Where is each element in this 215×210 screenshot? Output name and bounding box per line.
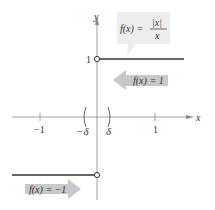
x-tick-label-1: 1 bbox=[153, 124, 158, 135]
upper-open-point bbox=[94, 56, 99, 61]
lower-open-point bbox=[94, 172, 99, 177]
callout-pointer bbox=[127, 44, 136, 56]
callout-numerator: |x| bbox=[152, 17, 162, 28]
x-axis-arrow-icon bbox=[186, 115, 194, 119]
y-axis-label: y bbox=[93, 11, 99, 22]
diagram-canvas: y x −1 1 1 −δ δ f(x) = |x| x f(x) = 1 f(… bbox=[0, 0, 215, 210]
callout-denominator: x bbox=[154, 30, 160, 41]
lower-branch-label: f(x) = −1 bbox=[29, 184, 66, 196]
upper-branch-label: f(x) = 1 bbox=[133, 75, 164, 87]
delta-right-label: δ bbox=[106, 125, 112, 137]
callout-lhs: f(x) = bbox=[120, 23, 143, 35]
delta-left-label: −δ bbox=[76, 125, 89, 137]
x-tick-label-neg1: −1 bbox=[34, 124, 45, 135]
y-tick-label-1: 1 bbox=[86, 54, 91, 65]
x-axis-label: x bbox=[195, 112, 201, 123]
